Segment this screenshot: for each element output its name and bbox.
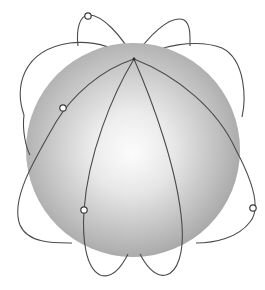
sphere-shade bbox=[26, 43, 240, 257]
orbit-convergence-point bbox=[133, 58, 136, 61]
satellite-icon bbox=[85, 13, 91, 19]
satellite-icon bbox=[60, 105, 66, 111]
satellite-icon bbox=[81, 207, 87, 213]
satellite-orbit-diagram bbox=[0, 0, 265, 290]
satellite-icon bbox=[250, 205, 256, 211]
